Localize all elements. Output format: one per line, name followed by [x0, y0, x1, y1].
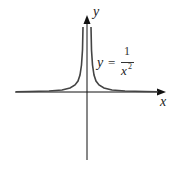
fraction-denominator: x — [121, 63, 127, 79]
fraction-exponent: 2 — [128, 62, 132, 71]
plot-area — [0, 0, 176, 170]
equation-equals: = — [108, 55, 115, 71]
curve-left-branch — [16, 27, 83, 92]
fraction-numerator: 1 — [121, 44, 133, 59]
y-axis-label: y — [93, 4, 99, 20]
equation-lhs: y — [97, 55, 103, 71]
y-axis-arrow-icon — [84, 15, 91, 24]
x-axis-label: x — [160, 94, 166, 110]
